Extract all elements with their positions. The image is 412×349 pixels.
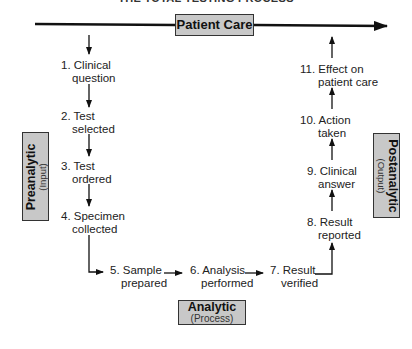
postanalytic-box: Postanalytic (Output): [373, 133, 400, 218]
step-2: 2. Test selected: [61, 110, 115, 136]
preanalytic-box: Preanalytic (Input): [22, 132, 49, 221]
postanalytic-sub: (Output): [375, 139, 385, 213]
step-11: 11. Effect on patient care: [300, 63, 378, 89]
step-4: 4. Specimen collected: [61, 210, 125, 236]
step-5: 5. Sample prepared: [110, 264, 167, 290]
preanalytic-sub: (Input): [37, 143, 47, 210]
step-3: 3. Test ordered: [61, 160, 112, 186]
step-9: 9. Clinical answer: [307, 165, 357, 191]
patient-care-box: Patient Care: [175, 14, 254, 36]
postanalytic-label: Postanalytic: [385, 139, 398, 213]
step-10: 10. Action taken: [300, 114, 351, 140]
step-7: 7. Result verified: [270, 264, 318, 290]
patient-care-label: Patient Care: [176, 15, 253, 34]
preanalytic-label: Preanalytic: [24, 143, 37, 210]
step-6: 6. Analysis performed: [190, 264, 253, 290]
step-8: 8. Result reported: [307, 216, 361, 242]
analytic-box: Analytic (Process): [178, 300, 246, 325]
step-1: 1. Clinical question: [61, 59, 115, 85]
analytic-sub: (Process): [179, 314, 245, 324]
